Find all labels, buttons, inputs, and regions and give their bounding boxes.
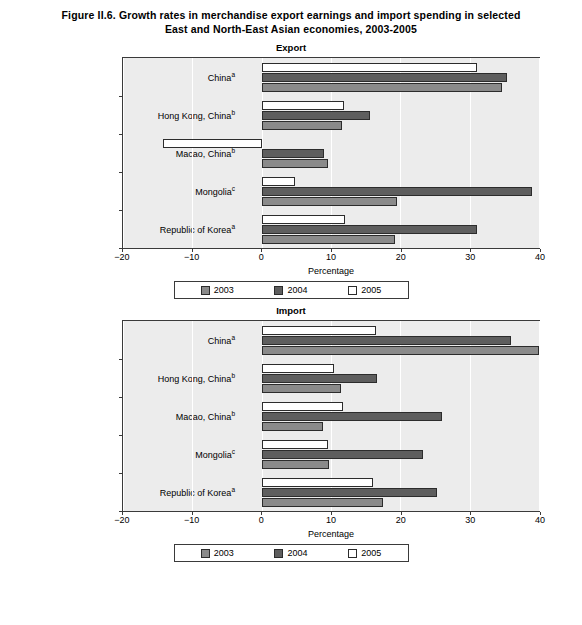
y-axis-category-label: Hong Kong, Chinab [158,109,235,121]
legend-label: 2005 [361,548,381,558]
bar-2004 [262,374,378,383]
export-plot-area: ChinaaHong Kong, ChinabMacao, ChinabMong… [122,57,540,249]
bar-2005 [262,364,334,373]
bar-2004 [262,187,532,196]
x-axis-tick-label: 20 [396,515,406,525]
legend-label: 2004 [287,548,307,558]
figure-title-line2: East and North-East Asian economies, 200… [22,22,560,36]
bar-2005 [262,478,373,487]
legend-label: 2004 [287,285,307,295]
x-axis-tick-label: −10 [184,252,199,262]
gridline [539,58,540,248]
export-panel: Export ChinaaHong Kong, ChinabMacao, Chi… [0,42,582,299]
y-axis-category-label: Republic of Koreaa [160,223,235,235]
x-axis-tick-label: −20 [114,515,129,525]
import-panel: Import ChinaaHong Kong, ChinabMacao, Chi… [0,305,582,562]
legend-item-2005[interactable]: 2005 [348,285,381,295]
bar-2004 [262,149,324,158]
x-axis-tick-label: 0 [259,515,264,525]
import-y-axis-labels: ChinaaHong Kong, ChinabMacao, ChinabMong… [123,321,241,511]
legend-label: 2003 [214,548,234,558]
figure-title: Figure II.6. Growth rates in merchandise… [0,0,582,36]
y-axis-tick [119,210,123,211]
export-legend: 200320042005 [174,281,409,299]
bar-2003 [262,460,329,469]
y-axis-tick [119,397,123,398]
bar-2005 [262,101,345,110]
y-axis-tick [119,134,123,135]
export-x-axis: −20−10010203040 [122,249,540,265]
gridline [123,58,124,248]
y-axis-category-label: Republic of Koreaa [160,486,235,498]
bar-2005 [262,63,477,72]
bar-2004 [262,450,423,459]
bar-2004 [262,225,477,234]
bar-2004 [262,73,507,82]
bar-2003 [262,159,328,168]
legend-item-2003[interactable]: 2003 [201,285,234,295]
export-x-axis-title: Percentage [122,266,540,276]
x-axis-tick-label: −20 [114,252,129,262]
import-x-axis-title: Percentage [122,529,540,539]
bar-2004 [262,488,437,497]
bar-2003 [262,498,383,507]
bar-2005 [262,177,295,186]
x-axis-tick-label: 0 [259,252,264,262]
x-axis-tick-label: 40 [535,252,545,262]
bar-2003 [262,422,323,431]
legend-swatch-icon [274,549,283,558]
import-plot-area: ChinaaHong Kong, ChinabMacao, ChinabMong… [122,320,540,512]
bar-2003 [262,197,397,206]
bar-2005 [262,440,329,449]
y-axis-category-label: Mongoliac [195,448,235,460]
y-axis-category-label: Mongoliac [195,185,235,197]
legend-swatch-icon [274,286,283,295]
export-panel-title: Export [0,42,582,53]
x-axis-tick-label: 40 [535,515,545,525]
bar-2005 [262,402,343,411]
bar-2004 [262,336,512,345]
legend-swatch-icon [201,286,210,295]
y-axis-category-label: Chinaa [208,334,235,346]
legend-item-2005[interactable]: 2005 [348,548,381,558]
bar-2003 [262,346,539,355]
x-axis-tick-label: 10 [326,252,336,262]
legend-swatch-icon [348,286,357,295]
y-axis-tick [119,172,123,173]
y-axis-category-label: Macao, Chinab [176,410,235,422]
legend-label: 2005 [361,285,381,295]
gridline [192,321,193,511]
figure-title-line1: Figure II.6. Growth rates in merchandise… [62,9,521,21]
bar-2004 [262,412,442,421]
legend-label: 2003 [214,285,234,295]
import-legend: 200320042005 [174,544,409,562]
legend-swatch-icon [201,549,210,558]
y-axis-category-label: Hong Kong, Chinab [158,372,235,384]
y-axis-category-label: Chinaa [208,71,235,83]
legend-swatch-icon [348,549,357,558]
bar-2003 [262,384,342,393]
x-axis-tick-label: 10 [326,515,336,525]
x-axis-tick-label: 20 [396,252,406,262]
gridline [192,58,193,248]
import-x-axis: −20−10010203040 [122,512,540,528]
legend-item-2003[interactable]: 2003 [201,548,234,558]
bar-2003 [262,121,342,130]
gridline [123,321,124,511]
x-axis-tick-label: −10 [184,515,199,525]
bar-2005 [163,139,261,148]
gridline [539,321,540,511]
x-axis-tick-label: 30 [465,252,475,262]
bar-2005 [262,326,376,335]
legend-item-2004[interactable]: 2004 [274,548,307,558]
y-axis-tick [119,359,123,360]
bar-2005 [262,215,345,224]
import-panel-title: Import [0,305,582,316]
y-axis-tick [119,96,123,97]
x-axis-tick-label: 30 [465,515,475,525]
y-axis-category-label: Macao, Chinab [176,147,235,159]
bar-2004 [262,111,370,120]
bar-2003 [262,83,502,92]
legend-item-2004[interactable]: 2004 [274,285,307,295]
y-axis-tick [119,473,123,474]
